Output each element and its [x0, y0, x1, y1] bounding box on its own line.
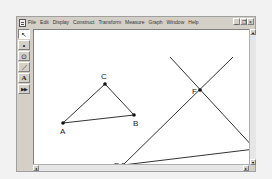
- scroll-down-button[interactable]: ▾: [250, 159, 256, 165]
- compass-icon: ⊙: [21, 53, 27, 60]
- menu-bar: File Edit Display Construct Transform Me…: [17, 17, 255, 28]
- text-icon: A: [21, 75, 26, 82]
- selection-arrow-tool[interactable]: ↖: [18, 29, 30, 39]
- scroll-up-button[interactable]: ▴: [250, 29, 256, 35]
- menu-display[interactable]: Display: [53, 17, 69, 28]
- point-icon: •: [23, 42, 25, 49]
- toolbox: ↖ • ⊙ ⟋ A ▶▶: [18, 29, 30, 94]
- point-label-a[interactable]: A: [60, 127, 66, 136]
- point-label-b[interactable]: B: [133, 119, 138, 128]
- menu-construct[interactable]: Construct: [73, 17, 94, 28]
- menu-edit[interactable]: Edit: [40, 17, 49, 28]
- horizontal-scrollbar[interactable]: ◂ ▸: [33, 164, 249, 171]
- straightedge-tool[interactable]: ⟋: [18, 62, 30, 72]
- sketch-canvas[interactable]: ABCDEF: [33, 29, 254, 165]
- menu-graph[interactable]: Graph: [149, 17, 163, 28]
- restore-button[interactable]: ❐: [240, 18, 247, 25]
- point-b[interactable]: [132, 113, 136, 117]
- menu-window[interactable]: Window: [166, 17, 184, 28]
- line-1[interactable]: [170, 57, 254, 149]
- line-2[interactable]: [123, 57, 233, 165]
- segment-bc[interactable]: [105, 84, 134, 115]
- segment-ca[interactable]: [63, 84, 105, 123]
- menu-file[interactable]: File: [28, 17, 36, 28]
- arrow-icon: ↖: [21, 31, 27, 38]
- segment-de[interactable]: [123, 149, 254, 165]
- sketch-drawing[interactable]: ABCDEF: [34, 30, 254, 165]
- point-label-f[interactable]: F: [192, 87, 197, 96]
- minimize-button[interactable]: _: [233, 18, 240, 25]
- document-icon[interactable]: [19, 19, 26, 27]
- compass-tool[interactable]: ⊙: [18, 51, 30, 61]
- custom-tool-icon: ▶▶: [21, 87, 27, 92]
- menu-transform[interactable]: Transform: [99, 17, 122, 28]
- vertical-scrollbar[interactable]: ▴ ▾: [249, 29, 256, 165]
- point-c[interactable]: [103, 82, 107, 86]
- text-tool[interactable]: A: [18, 73, 30, 83]
- point-tool[interactable]: •: [18, 40, 30, 50]
- straightedge-icon: ⟋: [22, 64, 27, 71]
- custom-tool[interactable]: ▶▶: [18, 84, 30, 94]
- scroll-right-button[interactable]: ▸: [243, 165, 249, 171]
- sketchpad-window: File Edit Display Construct Transform Me…: [16, 16, 256, 172]
- point-a[interactable]: [61, 121, 65, 125]
- window-controls: _ ❐ ×: [233, 18, 254, 25]
- menu-help[interactable]: Help: [188, 17, 198, 28]
- menu-measure[interactable]: Measure: [125, 17, 144, 28]
- point-label-c[interactable]: C: [101, 72, 107, 81]
- scroll-left-button[interactable]: ◂: [33, 165, 39, 171]
- segment-ab[interactable]: [63, 115, 134, 123]
- point-f[interactable]: [198, 88, 202, 92]
- close-button[interactable]: ×: [247, 18, 254, 25]
